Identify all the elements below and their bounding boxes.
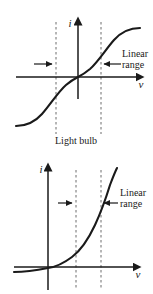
top-chart-x-axis-label: v (139, 78, 144, 90)
top-chart-linear-range-label-line2: range (122, 59, 145, 70)
bottom-chart-curve (14, 168, 117, 272)
bottom-chart-y-axis-label: i (39, 163, 42, 175)
bottom-chart-linear-range-label-line2: range (120, 198, 143, 209)
top-chart-caption: Light bulb (55, 135, 97, 146)
bottom-chart-linear-range-label-line1: Linear (120, 187, 147, 198)
bottom-chart-diode: i v Linear range (14, 163, 147, 290)
bottom-chart-x-axis-label: v (136, 268, 141, 280)
top-chart-linear-range-label-line1: Linear (122, 48, 149, 59)
top-chart-y-axis-label: i (68, 17, 71, 29)
top-chart-light-bulb: i v Linear range Light bulb (16, 17, 149, 146)
iv-characteristics-figure: i v Linear range Light bulb (0, 0, 153, 294)
